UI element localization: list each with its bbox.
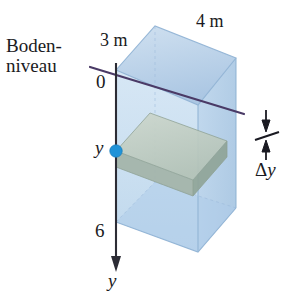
length-dimension-label: 4 m [196,12,224,31]
width-dimension-label: 3 m [100,31,128,50]
axis-name-label: y [108,271,116,291]
axis-bottom-tick-label: 6 [95,221,105,241]
ground-level-label: Boden- niveau [6,36,62,76]
depth-variable-label: y [95,138,103,158]
ground-level-label-line1: Boden- [6,36,62,56]
ground-level-label-line2: niveau [6,56,62,76]
delta-symbol: Δ [255,159,267,180]
delta-variable: y [267,159,275,180]
axis-origin-label: 0 [96,72,106,92]
delta-y-annotation [255,110,279,160]
slab-thickness-label: Δy [255,160,276,180]
tank-slab-diagram: Boden- niveau 3 m 4 m 0 y 6 y Δy [0,0,296,300]
depth-point-marker [110,145,122,157]
